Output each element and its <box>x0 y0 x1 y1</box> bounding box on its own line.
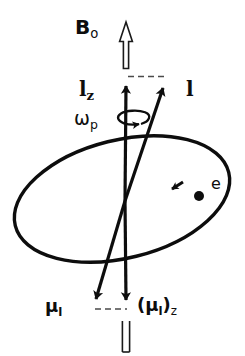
lz-vector <box>125 86 126 201</box>
orbit-direction-arrow <box>172 182 183 189</box>
label-mu-l-symbol: μ <box>45 295 58 316</box>
label-l-symbol: l <box>186 77 194 101</box>
label-b0-subscript: o <box>90 26 98 41</box>
mu-l-z-vector <box>125 201 126 300</box>
label-e-symbol: e <box>211 174 221 193</box>
b0-hollow-arrow <box>120 22 133 69</box>
label-mu-l-subscript: l <box>58 305 62 319</box>
label-b0-symbol: B <box>75 15 90 39</box>
label-magnetic-field-b0: Bo <box>75 17 98 37</box>
electron-orbit-ellipse <box>1 115 243 283</box>
b0-hollow-shaft-bottom <box>122 321 129 352</box>
label-mu-l-z-close: ) <box>163 294 171 315</box>
label-mu-l-z-symbol: μ <box>145 294 158 315</box>
label-lz-symbol: l <box>79 77 87 101</box>
l-vector <box>125 88 163 201</box>
label-mu-l-z-open: ( <box>137 294 145 315</box>
label-l: l <box>186 79 194 99</box>
label-lz: lz <box>79 79 94 99</box>
label-omega-subscript: p <box>90 117 98 132</box>
label-omega-p: ωp <box>74 109 98 128</box>
label-omega-symbol: ω <box>74 107 90 129</box>
label-mu-l-z-subscript2: z <box>171 304 177 318</box>
precession-arrow-loop <box>118 111 149 125</box>
precession-loop-path <box>118 111 149 125</box>
b0-shaft-lines-bottom <box>122 321 129 352</box>
orbit-path <box>1 115 243 283</box>
label-mu-l: μl <box>45 297 62 315</box>
physics-diagram-figure: Bo lz l ωp e μl (μl)z <box>0 0 245 356</box>
electron-dot <box>194 191 204 201</box>
b0-arrow-outline <box>120 22 133 69</box>
orbit-occlusion-gap-a <box>137 165 150 168</box>
label-lz-subscript: z <box>87 88 95 103</box>
label-mu-l-z-subscript: l <box>158 304 162 318</box>
diagram-canvas <box>0 0 245 356</box>
mu-l-vector <box>96 201 125 299</box>
label-electron-e: e <box>211 176 221 192</box>
label-mu-l-z: (μl)z <box>137 296 177 314</box>
